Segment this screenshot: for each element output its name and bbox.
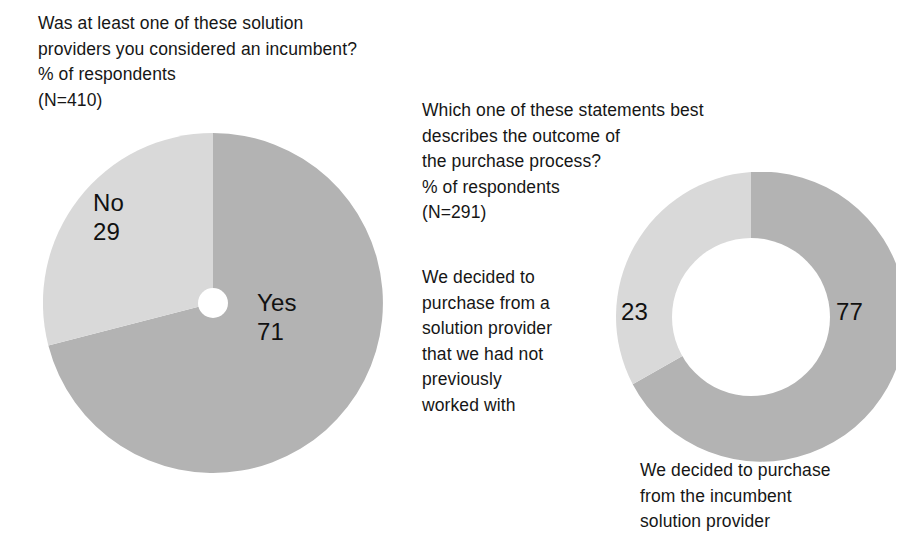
pie-svg (43, 133, 383, 473)
pie-chart-title: Was at least one of these solution provi… (38, 11, 438, 113)
donut-slice-label-incumbent: 77 (836, 297, 863, 326)
incumbent-pie-chart (43, 133, 383, 473)
donut-callout-incumbent: We decided to purchase from the incumben… (640, 458, 905, 535)
figure-canvas: Was at least one of these solution provi… (0, 0, 914, 546)
pie-slice-label-yes: Yes 71 (257, 288, 297, 346)
donut-callout-new-provider: We decided to purchase from a solution p… (422, 265, 612, 418)
pie-center-hole (198, 288, 228, 318)
pie-slice-label-no: No 29 (93, 188, 124, 246)
donut-center-hole (672, 238, 830, 396)
donut-slice-label-new-provider: 23 (621, 297, 648, 326)
